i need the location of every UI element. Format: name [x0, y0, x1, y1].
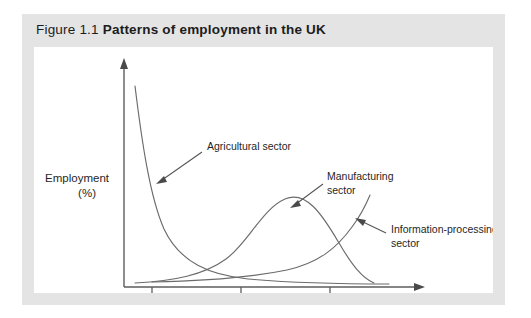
chart-panel: Employment (%) 1800 1900 2000 Year Agric… — [34, 47, 493, 293]
y-axis-arrowhead — [120, 58, 128, 69]
leader-manufacturing — [290, 184, 323, 208]
figure-root: Figure 1.1Patterns of employment in the … — [0, 0, 531, 318]
annotation-manufacturing-line2: sector — [327, 184, 356, 196]
annotation-information-line2: sector — [391, 237, 420, 249]
figure-caption: Figure 1.1Patterns of employment in the … — [36, 22, 326, 37]
figure-number: Figure 1.1 — [36, 22, 99, 37]
leader-agricultural — [156, 152, 202, 184]
y-axis — [120, 58, 128, 287]
curve-information-processing — [152, 195, 370, 282]
annotation-manufacturing-line1: Manufacturing — [327, 170, 394, 182]
employment-line-chart: Employment (%) 1800 1900 2000 Year Agric… — [34, 47, 493, 293]
y-axis-label-line1: Employment — [45, 172, 110, 184]
x-axis-arrowhead — [414, 283, 425, 291]
page-title: Patterns of employment in the UK — [103, 22, 326, 37]
y-axis-label-line2: (%) — [78, 187, 96, 199]
leader-information — [355, 218, 386, 233]
x-axis-ticks — [152, 287, 330, 293]
annotation-information-line1: Information-processing — [391, 223, 493, 235]
figure-frame: Figure 1.1Patterns of employment in the … — [22, 14, 505, 305]
annotation-agricultural: Agricultural sector — [207, 140, 292, 152]
